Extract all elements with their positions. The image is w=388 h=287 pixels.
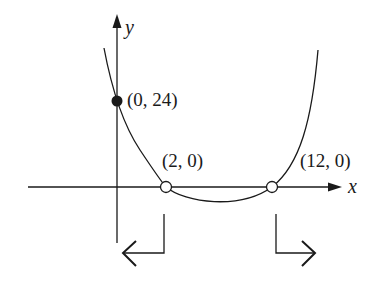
x-axis-arrow-icon bbox=[328, 183, 342, 192]
y-axis: y bbox=[113, 14, 135, 243]
point-label-2-0: (2, 0) bbox=[162, 150, 203, 172]
function-graph: x y (0, 24) (2, 0) (12, 0) bbox=[0, 0, 388, 287]
y-axis-label: y bbox=[123, 16, 134, 39]
point-label-0-24: (0, 24) bbox=[127, 89, 178, 111]
x-axis-label: x bbox=[347, 175, 357, 197]
right-interval-arrow-icon bbox=[276, 214, 315, 266]
left-interval-arrow-icon bbox=[123, 214, 164, 266]
function-curve bbox=[104, 48, 318, 202]
x-intercept-point-12 bbox=[267, 182, 278, 193]
x-axis: x bbox=[28, 175, 357, 197]
y-axis-arrow-icon bbox=[113, 14, 122, 28]
x-intercept-point-2 bbox=[161, 182, 172, 193]
point-label-12-0: (12, 0) bbox=[300, 150, 351, 172]
y-intercept-point bbox=[112, 96, 123, 107]
